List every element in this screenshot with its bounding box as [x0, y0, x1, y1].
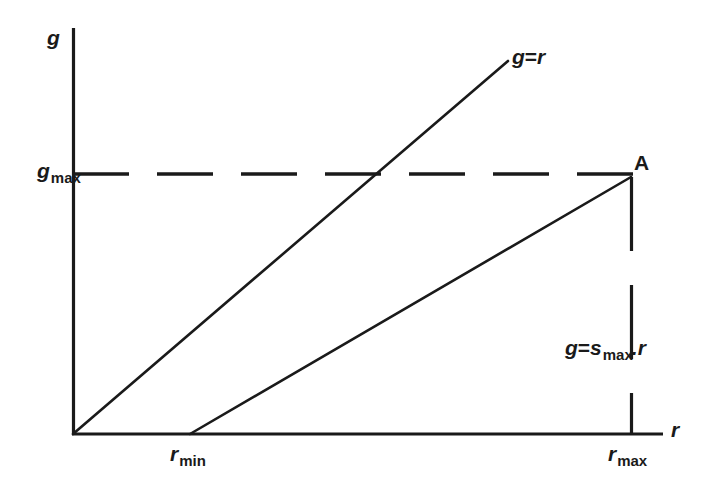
rmax-base-text: r [608, 442, 616, 465]
annotation-line-g-equals-smax-r: g=smax.r [565, 337, 646, 358]
figure-container: g r gmax rmin rmax g=r g=smax.r A [0, 0, 719, 497]
x-axis-title-text: r [671, 418, 679, 441]
plot-canvas [0, 0, 719, 497]
annotation-line-g-equals-r: g=r [512, 46, 545, 67]
gr-equals-sign: = [525, 45, 537, 68]
gsmax-equals-sign: = [578, 336, 590, 359]
x-tick-label-rmax: rmax [608, 443, 646, 464]
series-line-g-equals-r [73, 61, 508, 434]
x-axis-title: r [671, 419, 679, 440]
gr-g-text: g [512, 45, 525, 68]
y-axis-title: g [47, 27, 60, 48]
rmin-subscript-text: min [179, 452, 206, 469]
gsmax-tail-text: .r [632, 336, 646, 359]
gmax-subscript-text: max [51, 169, 81, 186]
x-tick-label-rmin: rmin [170, 443, 205, 464]
annotation-point-a: A [634, 152, 649, 173]
gr-r-text: r [537, 45, 545, 68]
y-tick-label-gmax: gmax [37, 160, 80, 181]
point-a-text: A [634, 151, 649, 174]
gsmax-subscript-text: max [603, 346, 633, 363]
y-axis-title-text: g [47, 26, 60, 49]
gsmax-g-text: g [565, 336, 578, 359]
gmax-base-text: g [37, 159, 50, 182]
gsmax-s-text: s [590, 336, 602, 359]
rmin-base-text: r [170, 442, 178, 465]
rmax-subscript-text: max [617, 452, 647, 469]
series-line-g-equals-smax-r [190, 177, 631, 434]
